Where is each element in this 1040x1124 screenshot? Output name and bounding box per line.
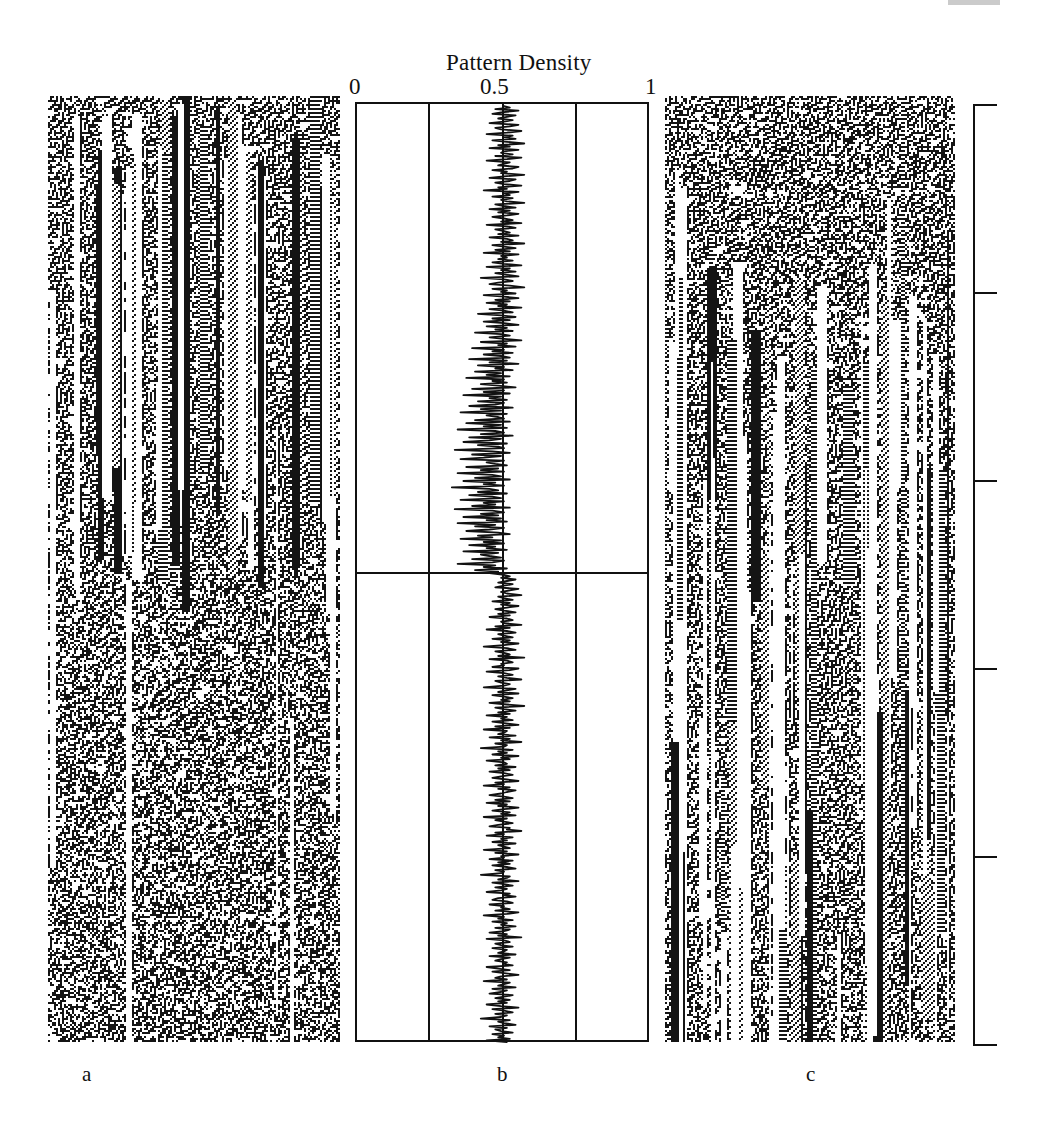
panel-label-c: c bbox=[806, 1062, 815, 1087]
xtick-label-half: 0.5 bbox=[480, 74, 509, 100]
right-axis-tick bbox=[973, 480, 997, 482]
right-axis-tick bbox=[973, 1044, 997, 1046]
density-trace bbox=[357, 104, 651, 1044]
panel-b-title: Pattern Density bbox=[446, 50, 591, 76]
panel-a-canvas bbox=[48, 96, 340, 1042]
right-axis-tick bbox=[973, 856, 997, 858]
right-axis bbox=[973, 104, 999, 1046]
panel-c-canvas bbox=[665, 96, 955, 1042]
xtick-label-1: 1 bbox=[645, 74, 657, 100]
panel-b-plot-frame bbox=[355, 102, 649, 1042]
panel-label-b: b bbox=[497, 1062, 508, 1087]
right-axis-tick bbox=[973, 668, 997, 670]
right-axis-tick bbox=[973, 292, 997, 294]
scan-artifact-mark bbox=[948, 0, 1000, 5]
panel-label-a: a bbox=[82, 1062, 91, 1087]
right-axis-tick bbox=[973, 104, 997, 106]
right-axis-spine bbox=[973, 104, 975, 1046]
xtick-label-0: 0 bbox=[349, 74, 361, 100]
panel-c-spacetime bbox=[665, 96, 955, 1042]
figure-container: a Pattern Density 0 0.5 1 b c bbox=[0, 0, 1040, 1124]
panel-a-spacetime bbox=[48, 96, 340, 1042]
